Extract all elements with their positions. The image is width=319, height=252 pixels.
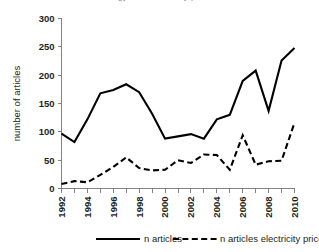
series-line-n-articles [62,48,295,142]
y-tick-label: 300 [39,13,55,24]
series-line-n-articles-electricity-price [62,123,295,184]
x-axis-group: 1992199419961998200020022004200620082010 [56,189,300,218]
y-tick-label: 150 [39,98,55,109]
y-axis-ticks [58,19,62,189]
y-tick-label: 200 [39,70,55,81]
x-tick-label: 2010 [289,197,300,218]
legend-label-2: n articles electricity price [220,233,319,244]
plot-series-group [62,48,295,184]
chart-figure: number of articles on energy and electri… [0,0,319,252]
y-tick-label: 250 [39,41,55,52]
x-axis-ticks [62,189,295,193]
chart-legend: n articlesn articles electricity price [96,233,319,244]
x-tick-label: 1992 [56,197,67,218]
clipped-figure-header: number of articles on energy and electri… [0,0,319,2]
x-tick-label: 2002 [185,197,196,218]
x-tick-label: 2006 [237,197,248,218]
x-tick-label: 1994 [82,196,93,218]
y-tick-label: 0 [49,183,54,194]
x-tick-label: 2000 [159,197,170,218]
y-tick-label: 50 [44,155,55,166]
x-tick-label: 2004 [211,196,222,218]
y-axis-title: number of articles [11,66,22,142]
x-tick-label: 2008 [263,197,274,218]
y-axis-group: 050100150200250300 number of articles [11,13,62,194]
x-tick-label: 1996 [108,197,119,218]
y-tick-label: 100 [39,126,55,137]
line-chart-canvas: 050100150200250300 number of articles 19… [0,0,319,252]
x-axis-tick-labels: 1992199419961998200020022004200620082010 [56,196,300,218]
y-axis-tick-labels: 050100150200250300 [39,13,55,194]
x-tick-label: 1998 [134,197,145,218]
